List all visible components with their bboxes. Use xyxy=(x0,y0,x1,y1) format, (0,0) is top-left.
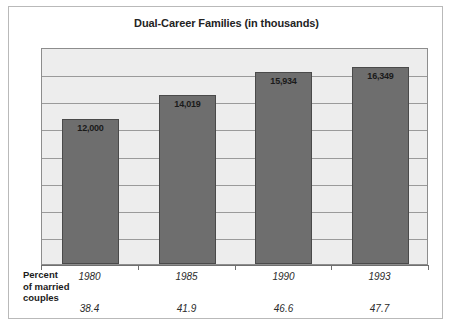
category-year-label: 1990 xyxy=(235,271,332,282)
bar-value-label: 12,000 xyxy=(63,123,118,133)
percent-value-label: 38.4 xyxy=(41,303,138,314)
plot-area: 12,00014,01915,93416,349 xyxy=(41,48,428,265)
category-year-label: 1980 xyxy=(41,271,138,282)
row-label-line: of married xyxy=(23,281,97,293)
bar-value-label: 16,349 xyxy=(353,71,408,81)
chart-figure: Dual-Career Families (in thousands) 12,0… xyxy=(8,6,443,319)
row-label-line: couples xyxy=(23,292,97,304)
percent-value-label: 46.6 xyxy=(235,303,332,314)
bar: 15,934 xyxy=(255,72,312,264)
axis-tick xyxy=(235,265,236,270)
bar-value-label: 14,019 xyxy=(160,99,215,109)
axis-tick xyxy=(138,265,139,270)
bar-series: 12,00014,01915,93416,349 xyxy=(42,49,427,264)
percent-value-label: 41.9 xyxy=(138,303,235,314)
category-year-label: 1993 xyxy=(331,271,428,282)
bar: 12,000 xyxy=(62,119,119,264)
axis-tick xyxy=(428,265,429,270)
percent-value-label: 47.7 xyxy=(331,303,428,314)
bar-value-label: 15,934 xyxy=(256,76,311,86)
bar: 14,019 xyxy=(159,95,216,264)
category-year-label: 1985 xyxy=(138,271,235,282)
bar: 16,349 xyxy=(352,67,409,264)
page-title: Dual-Career Families (in thousands) xyxy=(9,17,444,29)
axis-tick xyxy=(331,265,332,270)
